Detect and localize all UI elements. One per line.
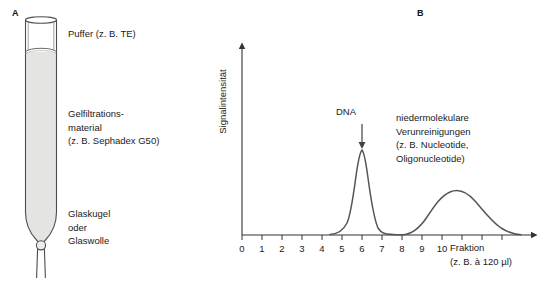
column-rim: [26, 17, 57, 23]
label-glass-line3: Glaswolle: [68, 234, 110, 248]
label-glass-line1: Glaskugel: [68, 207, 110, 221]
contaminants-line3: (z. B. Nucleotide,: [396, 138, 470, 152]
x-tick-label-3: 3: [295, 243, 309, 254]
x-axis-sublabel: (z. B. à 120 µl): [450, 255, 512, 269]
contaminants-line2: Verunreinigungen: [396, 125, 470, 139]
buffer-region: [26, 20, 56, 52]
label-puffer: Puffer (z. B. TE): [68, 27, 136, 41]
x-tick-label-10: 10: [435, 243, 449, 254]
x-tick-label-9: 9: [415, 243, 429, 254]
x-tick-label-8: 8: [395, 243, 409, 254]
label-puffer-line1: Puffer (z. B. TE): [68, 27, 136, 41]
label-glass-line2: oder: [68, 221, 110, 235]
x-tick-label-1: 1: [255, 243, 269, 254]
figure-container: A Puffer (z. B. TE) Gelfiltrations: [0, 0, 552, 281]
label-gel-line1: Gelfiltrations-: [68, 107, 159, 121]
gel-material-fill: [26, 52, 57, 244]
x-tick-label-5: 5: [335, 243, 349, 254]
contaminants-label: niedermolekulare Verunreinigungen (z. B.…: [396, 111, 470, 165]
x-tick-label-6: 6: [355, 243, 369, 254]
glass-bead-icon: [36, 241, 45, 250]
column-outlet-stem: [37, 249, 46, 278]
x-axis-ticks: [242, 235, 502, 240]
x-tick-label-2: 2: [275, 243, 289, 254]
label-gel-line3: (z. B. Sephadex G50): [68, 134, 159, 148]
dna-peak-label: DNA: [336, 105, 356, 119]
label-gel-material: Gelfiltrations- material (z. B. Sephadex…: [68, 107, 159, 148]
x-axis-label: Fraktion: [450, 241, 484, 255]
contaminants-line4: Oligonucleotide): [396, 152, 470, 166]
panel-a-column-diagram: A Puffer (z. B. TE) Gelfiltrations: [0, 0, 205, 281]
x-tick-label-0: 0: [235, 243, 249, 254]
y-axis-label: Signalintensität: [217, 52, 228, 152]
label-glass-wool: Glaskugel oder Glaswolle: [68, 207, 110, 248]
chromatogram-plot: [205, 0, 552, 281]
panel-b-chromatogram: B: [205, 0, 552, 281]
x-tick-label-7: 7: [375, 243, 389, 254]
contaminants-line1: niedermolekulare: [396, 111, 470, 125]
x-tick-label-4: 4: [315, 243, 329, 254]
label-gel-line2: material: [68, 121, 159, 135]
